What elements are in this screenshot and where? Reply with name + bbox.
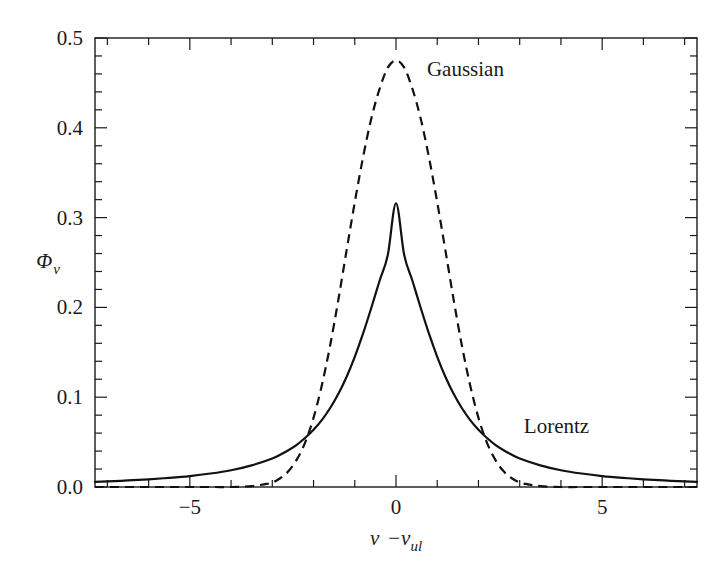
- y-tick-label-0.5: 0.5: [57, 26, 83, 50]
- plot-canvas: −505 0.00.10.20.30.40.5 Gaussian Lorentz…: [0, 0, 727, 580]
- y-tick-label-0.3: 0.3: [57, 206, 83, 230]
- figure-background: [0, 0, 727, 580]
- lorentz-label: Lorentz: [524, 414, 589, 438]
- y-tick-label-0.0: 0.0: [57, 475, 83, 499]
- y-axis-label-phi: Φ: [36, 249, 52, 273]
- x-axis-label-subscript: ul: [410, 538, 422, 554]
- x-tick-label--5: −5: [179, 495, 201, 519]
- line-profile-figure: −505 0.00.10.20.30.40.5 Gaussian Lorentz…: [0, 0, 727, 580]
- y-tick-label-0.1: 0.1: [57, 385, 83, 409]
- y-tick-label-0.2: 0.2: [57, 295, 83, 319]
- x-tick-label-5: 5: [597, 495, 608, 519]
- y-tick-label-0.4: 0.4: [57, 116, 84, 140]
- gaussian-label: Gaussian: [427, 57, 504, 81]
- x-axis-label-nu: ν: [370, 526, 380, 550]
- x-tick-label-0: 0: [391, 495, 402, 519]
- x-axis-label-minus: −: [388, 526, 400, 550]
- y-axis-label-subscript: ν: [53, 261, 60, 277]
